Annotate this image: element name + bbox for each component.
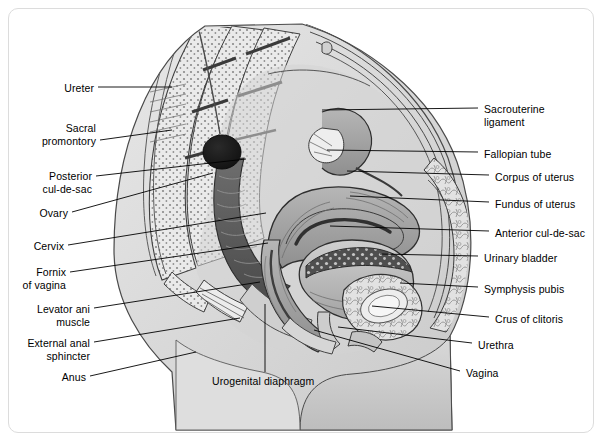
label-sacrouterine-ligament: Sacrouterine ligament [484,103,545,128]
label-ureter: Ureter [0,82,94,95]
label-external-anal-sphincter: External anal sphincter [0,337,90,362]
label-urogenital-diaphragm: Urogenital diaphragm [212,375,314,388]
label-symphysis-pubis: Symphysis pubis [484,283,564,296]
label-vagina: Vagina [466,367,499,380]
label-crus-of-clitoris: Crus of clitoris [495,313,563,326]
label-fornix-of-vagina: Fornix of vagina [0,266,66,291]
umbilicus [322,42,332,54]
label-levator-ani-muscle: Levator ani muscle [0,303,90,328]
label-sacral-promontory: Sacral promontory [0,122,96,147]
figure-page: UreterSacral promontoryPosterior cul-de-… [0,0,604,443]
label-ovary: Ovary [0,207,68,220]
label-fallopian-tube: Fallopian tube [484,148,551,161]
label-urethra: Urethra [478,339,514,352]
ovary [203,135,241,169]
label-anterior-cul-de-sac: Anterior cul-de-sac [495,227,585,240]
label-corpus-of-uterus: Corpus of uterus [495,171,574,184]
label-urinary-bladder: Urinary bladder [484,252,557,265]
label-cervix: Cervix [0,240,64,253]
label-anus: Anus [0,371,86,384]
label-fundus-of-uterus: Fundus of uterus [495,198,575,211]
label-posterior-cul-de-sac: Posterior cul-de-sac [0,170,92,195]
